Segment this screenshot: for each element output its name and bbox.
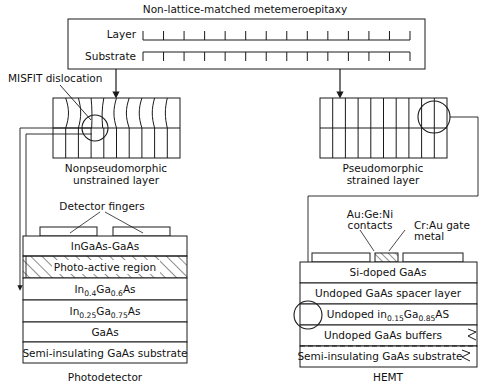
hemt-layer-label-1: Undoped GaAs spacer layer: [315, 287, 462, 299]
photodetector-caption: Photodetector: [68, 371, 143, 383]
nonpseudomorphic-caption-line2: unstrained layer: [73, 174, 160, 186]
substrate-row-label: Substrate: [85, 50, 136, 62]
misfit-leader-line: [60, 85, 91, 120]
hemt-layer-label-0: Si-doped GaAs: [350, 266, 427, 278]
nonpseudomorphic-lattice: MISFIT dislocation Nonpseudomorphic unst…: [8, 72, 180, 186]
top-box-title: Non-lattice-matched metemeroepitaxy: [143, 3, 347, 15]
pd-layer-label-0: InGaAs-GaAs: [71, 240, 139, 252]
substrate-lattice: [143, 52, 410, 61]
pd-layer-label-4: GaAs: [91, 326, 118, 338]
hemt-contacts-label-line2: contacts: [348, 219, 393, 231]
hemt-contact-left: [312, 253, 370, 262]
hemt-gate-metal: [375, 253, 398, 262]
figure-root: Non-lattice-matched metemeroepitaxy Laye…: [0, 0, 491, 390]
hemt-caption: HEMT: [373, 371, 404, 383]
nonpseudomorphic-caption-line1: Nonpseudomorphic: [65, 162, 167, 174]
hemt-stack: Au:Ge:Ni contacts Cr:Au gate metal Si-do…: [294, 208, 477, 383]
pseudomorphic-caption-line2: strained layer: [347, 174, 420, 186]
pseudomorphic-lattice: Pseudomorphic strained layer: [320, 98, 450, 186]
hemt-contact-right: [403, 253, 463, 262]
pseudomorphic-caption-line1: Pseudomorphic: [343, 162, 424, 174]
pd-layer-label-5: Semi-insulating GaAs substrate: [22, 347, 187, 359]
pd-layer-label-1: Photo-active region: [54, 261, 156, 273]
misfit-dislocation-label: MISFIT dislocation: [8, 72, 102, 84]
layer-lattice: [143, 31, 410, 40]
hemt-layer-label-3: Undoped GaAs buffers: [324, 329, 442, 341]
detector-fingers-label: Detector fingers: [59, 200, 144, 212]
detector-finger-left: [40, 227, 97, 236]
photodetector-stack: Detector fingers InGaAs-GaAs Photo-activ…: [22, 200, 187, 383]
hemt-gate-label-line2: metal: [414, 230, 444, 242]
layer-row-label: Layer: [107, 28, 137, 40]
branch-arrows: [116, 69, 340, 95]
diagram-canvas: Non-lattice-matched metemeroepitaxy Laye…: [0, 0, 491, 390]
detector-finger-right: [113, 227, 170, 236]
top-box-group: Non-lattice-matched metemeroepitaxy Laye…: [68, 3, 425, 69]
hemt-layer-label-4: Semi-insulating GaAs substrate: [297, 350, 462, 362]
